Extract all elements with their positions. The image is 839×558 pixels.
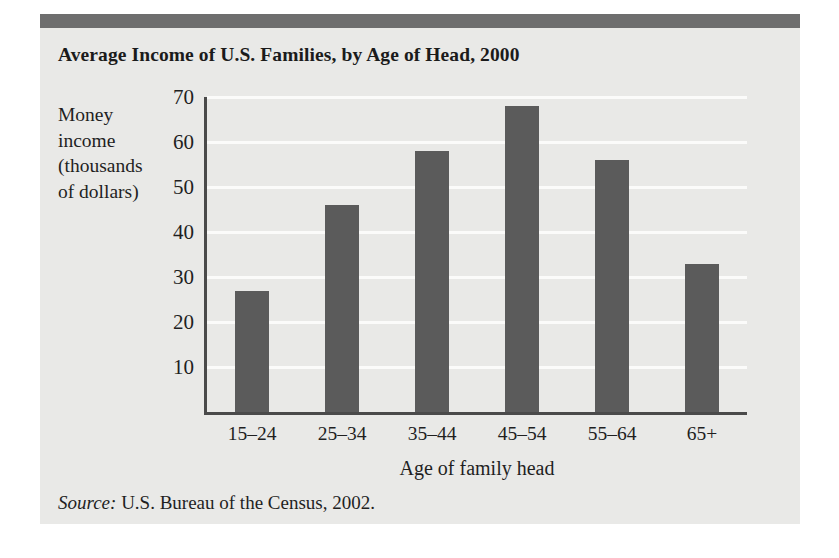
source-note: Source: U.S. Bureau of the Census, 2002. <box>58 492 375 514</box>
x-tick-label-65+: 65+ <box>687 423 718 445</box>
gridline-20 <box>207 321 747 324</box>
bar-55–64 <box>595 160 629 412</box>
bar-65+ <box>685 264 719 413</box>
x-tick-label-35–44: 35–44 <box>408 423 457 445</box>
bar-45–54 <box>505 106 539 412</box>
y-tick-label-10: 10 <box>173 355 194 380</box>
gridline-60 <box>207 141 747 144</box>
y-tick-label-30: 30 <box>173 265 194 290</box>
x-tick-label-25–34: 25–34 <box>318 423 367 445</box>
gridline-10 <box>207 366 747 369</box>
bar-15–24 <box>235 291 269 413</box>
gridline-70 <box>207 96 747 99</box>
source-label: Source: <box>58 492 116 513</box>
bar-35–44 <box>415 151 449 412</box>
x-tick-label-55–64: 55–64 <box>588 423 637 445</box>
figure-panel: Average Income of U.S. Families, by Age … <box>40 14 800 524</box>
x-axis-line <box>204 412 747 415</box>
y-tick-label-50: 50 <box>173 175 194 200</box>
y-tick-label-60: 60 <box>173 130 194 155</box>
y-tick-label-20: 20 <box>173 310 194 335</box>
gridline-40 <box>207 231 747 234</box>
y-tick-label-70: 70 <box>173 85 194 110</box>
gridline-50 <box>207 186 747 189</box>
x-tick-label-15–24: 15–24 <box>228 423 277 445</box>
gridline-30 <box>207 276 747 279</box>
plot-area: 10203040506070 15–2425–3435–4445–5455–64… <box>207 97 747 412</box>
figure-top-rule <box>40 14 800 28</box>
x-tick-label-45–54: 45–54 <box>498 423 547 445</box>
x-axis-label: Age of family head <box>207 457 747 480</box>
figure-title: Average Income of U.S. Families, by Age … <box>58 44 520 66</box>
bar-25–34 <box>325 205 359 412</box>
y-tick-label-40: 40 <box>173 220 194 245</box>
source-text: U.S. Bureau of the Census, 2002. <box>121 492 375 513</box>
